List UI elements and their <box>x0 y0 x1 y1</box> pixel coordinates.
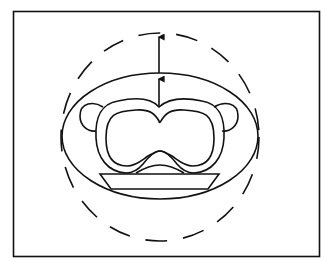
table <box>100 174 219 189</box>
right-arm <box>214 104 238 132</box>
dashed-boundary <box>61 33 259 241</box>
solid-ellipse-boundary <box>62 73 258 199</box>
spine-contour <box>136 165 184 173</box>
outer-frame <box>14 12 320 257</box>
torso-inner-outline <box>106 110 214 166</box>
diagram-canvas <box>0 0 325 261</box>
left-arm <box>80 104 103 132</box>
